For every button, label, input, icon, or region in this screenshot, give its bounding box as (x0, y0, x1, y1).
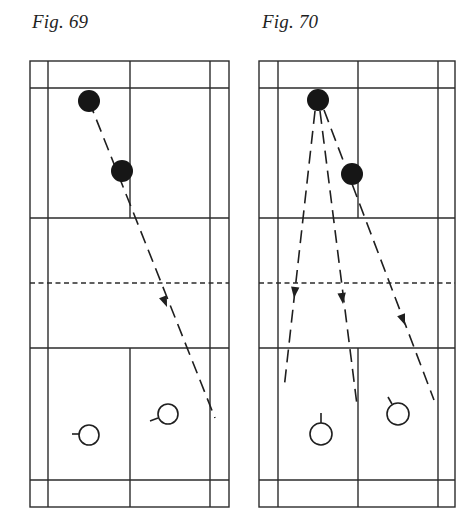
arrow-head-icon (159, 295, 167, 307)
court-boundary (259, 61, 455, 507)
racket-icon (150, 418, 158, 421)
player-filled-icon (307, 89, 329, 111)
player-open-icon (387, 403, 409, 425)
arrow-head-icon (397, 313, 405, 325)
player-open-icon (310, 423, 332, 445)
shuttle-trajectory (324, 110, 434, 400)
diagram-canvas (0, 0, 469, 530)
figure-69-court-diagram (30, 61, 229, 507)
player-filled-icon (341, 163, 363, 185)
player-open-icon (158, 404, 178, 424)
figure-70-court-diagram (259, 61, 455, 507)
player-filled-icon (111, 160, 133, 182)
arrow-head-icon (291, 287, 299, 298)
shuttle-trajectory (89, 101, 215, 418)
racket-icon (388, 397, 392, 404)
player-filled-icon (78, 90, 100, 112)
shuttle-trajectory (320, 111, 357, 405)
player-open-icon (79, 425, 99, 445)
